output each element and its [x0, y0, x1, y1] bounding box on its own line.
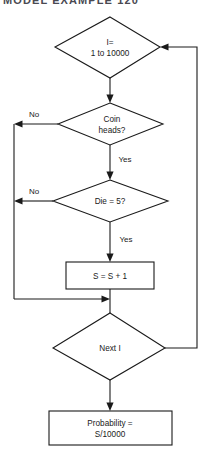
process-result-line-2: S/10000 [95, 430, 126, 439]
decision-die-test[interactable]: Die = 5? [53, 180, 168, 222]
connector-dietest-no [14, 197, 53, 204]
branch-label-die-yes: Yes [119, 235, 132, 244]
process-result[interactable]: Probability = S/10000 [49, 411, 172, 445]
decision-loop-next-line-1: Next I [99, 344, 120, 353]
process-increment-line-1: S = S + 1 [93, 272, 128, 281]
decision-coin-test-line-2: heads? [99, 126, 126, 135]
branch-label-coin-yes: Yes [118, 155, 131, 164]
connector-loopnext-return [160, 43, 197, 348]
branch-label-coin-no: No [29, 110, 40, 119]
decision-coin-test-line-1: Coin [104, 115, 121, 124]
connector-loopstart-to-cointest [106, 78, 113, 103]
process-increment[interactable]: S = S + 1 [66, 262, 154, 289]
decision-loop-start-line-1: I= [106, 38, 113, 47]
flowchart-root: MODEL EXAMPLE 120 [0, 0, 211, 456]
connector-cointest-no [14, 120, 58, 299]
decision-die-test-line-1: Die = 5? [95, 197, 126, 206]
decision-loop-next[interactable]: Next I [53, 313, 165, 380]
decision-coin-test[interactable]: Coin heads? [58, 103, 163, 145]
process-result-line-1: Probability = [87, 419, 133, 428]
connector-cointest-yes [106, 145, 113, 180]
connector-left-rail-return [14, 295, 110, 302]
decision-loop-start-line-2: 1 to 10000 [91, 49, 130, 58]
decision-loop-start[interactable]: I= 1 to 10000 [55, 17, 160, 78]
flowchart-canvas: I= 1 to 10000 Coin heads? Die = 5? S = S… [0, 0, 211, 456]
branch-label-die-no: No [29, 187, 40, 196]
connector-loopnext-to-result [106, 380, 113, 411]
connector-dietest-yes [106, 222, 113, 262]
